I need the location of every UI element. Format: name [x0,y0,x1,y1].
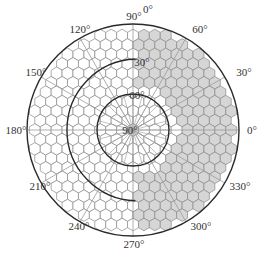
elevation-label: 0° [143,3,153,15]
hex-cell [117,218,128,231]
azimuth-label: 180° [6,124,27,136]
polar-hex-diagram: 90°60°30°0°330°300°270°240°210°180°150°1… [0,0,267,258]
hex-cell [106,218,117,231]
azimuth-label: 60° [192,23,207,35]
azimuth-label: 90° [126,10,141,22]
azimuth-label: 330° [230,180,251,192]
azimuth-label: 300° [191,220,212,232]
elevation-label: 60° [129,89,144,101]
center-label: 90° [122,124,137,136]
azimuth-label: 30° [236,66,251,78]
elevation-label: 30° [134,56,149,68]
hex-cell-shaded [149,218,160,231]
azimuth-label: 120° [70,23,91,35]
azimuth-label: 150° [26,66,47,78]
azimuth-label: 210° [30,180,51,192]
azimuth-label: 270° [124,238,145,250]
azimuth-label: 0° [247,124,257,136]
azimuth-label: 240° [69,220,90,232]
hex-cell-shaded [138,218,149,231]
